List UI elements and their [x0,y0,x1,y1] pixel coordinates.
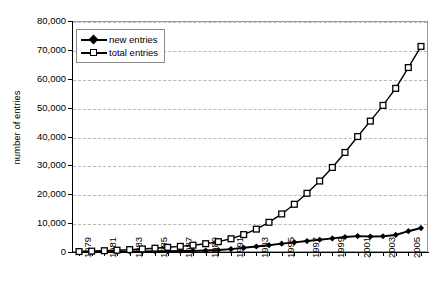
data-point-marker [253,226,259,232]
data-point-marker [304,238,310,244]
open-square-marker-icon [81,47,107,59]
legend-label: total entries [109,47,158,58]
data-point-marker [215,247,221,253]
data-point-marker [329,165,335,171]
data-point-marker [418,225,424,231]
data-point-marker [228,236,234,242]
data-point-marker [266,219,272,225]
data-point-marker [279,241,285,247]
data-point-marker [177,243,183,249]
chart-legend: new entriestotal entries [76,29,165,63]
data-point-marker [393,232,399,238]
data-point-marker [355,233,361,239]
data-point-marker [393,85,399,91]
data-point-marker [342,234,348,240]
data-point-marker [152,245,158,251]
data-point-marker [127,247,133,253]
data-point-marker [367,233,373,239]
data-point-marker [241,232,247,238]
data-point-marker [215,239,221,245]
data-point-marker [317,237,323,243]
data-point-marker [304,190,310,196]
data-point-marker [228,246,234,252]
data-point-marker [291,201,297,207]
data-point-marker [241,245,247,251]
legend-item: total entries [81,46,158,59]
data-point-marker [253,243,259,249]
series-layer [0,0,446,305]
series-line [79,46,421,251]
data-point-marker [329,235,335,241]
data-point-marker [203,247,209,253]
data-point-marker [203,241,209,247]
data-point-marker [76,249,82,255]
legend-item: new entries [81,33,158,46]
chart-container: number of entries 010,00020,00030,00040,… [0,0,446,305]
data-point-marker [291,239,297,245]
data-point-marker [355,134,361,140]
data-point-marker [279,211,285,217]
data-point-marker [190,242,196,248]
series-total-entries [76,44,424,255]
data-point-marker [380,233,386,239]
data-point-marker [367,118,373,124]
data-point-marker [380,102,386,108]
data-point-marker [266,242,272,248]
data-point-marker [418,44,424,50]
legend-label: new entries [109,34,158,45]
filled-diamond-marker-icon [81,34,107,46]
data-point-marker [89,248,95,254]
data-point-marker [114,247,120,253]
data-point-marker [405,65,411,71]
data-point-marker [317,178,323,184]
data-point-marker [405,228,411,234]
data-point-marker [139,246,145,252]
data-point-marker [165,244,171,250]
data-point-marker [342,150,348,156]
data-point-marker [101,248,107,254]
